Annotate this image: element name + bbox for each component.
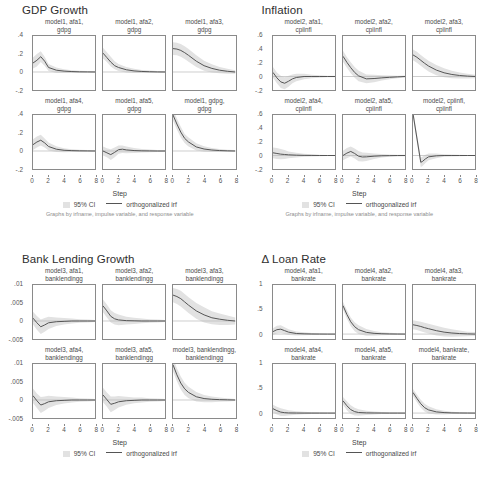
x-axis-tick-label: 2 (286, 427, 290, 433)
x-axis-row: 024680246802468 (240, 424, 479, 435)
x-axis-title: Step (240, 190, 479, 197)
x-axis-tick-label: 8 (474, 427, 478, 433)
x-axis-tick-label: 0 (171, 178, 175, 184)
panel-cell: model4, bankrate, bankrate (409, 346, 479, 424)
legend: 95% CIorthogonalized irf (240, 201, 479, 208)
x-axis-tick-label: 4 (372, 178, 376, 184)
plot-area (342, 363, 406, 419)
irf-line-swatch-icon (346, 452, 362, 453)
panel-row: 1.50model4, afa4, bankratemodel4, afa5, … (240, 346, 479, 424)
x-axis-row: 024680246802468 (240, 175, 479, 186)
plot-area (102, 363, 166, 419)
panel-cell: model2, afa2, cpiinfl (339, 18, 409, 96)
panel-title: model4, bankrate, bankrate (409, 346, 479, 361)
panel-group-bank-lending-growth: Bank Lending Growth .01.0050-.005model3,… (0, 243, 240, 486)
x-axis-tick-label: 4 (132, 427, 136, 433)
x-axis-tick-label: 6 (219, 427, 223, 433)
panel-title: model2, afa2, cpiinfl (339, 18, 409, 33)
x-axis-row: 024680246802468 (0, 175, 240, 186)
panel-cell: model4, afa1, bankrate (269, 267, 339, 345)
y-axis-tick-label: .6 (257, 32, 262, 38)
y-axis-tick-label: .01 (14, 281, 23, 287)
plot-area (102, 114, 166, 170)
panel-cell: model3, afa1, banklendingg (29, 267, 99, 345)
x-axis-tick-label: 4 (442, 178, 446, 184)
y-axis-tick-label: .4 (18, 32, 23, 38)
x-axis-tick-label: 8 (165, 427, 169, 433)
y-axis-tick-label: -.005 (8, 416, 23, 422)
y-axis-tick-label: .01 (14, 360, 23, 366)
x-axis-tick-label: 8 (94, 427, 98, 433)
x-axis-tick-label: 0 (30, 427, 34, 433)
plot-area (32, 284, 96, 340)
panel-title: model1, afa1, gdpg (29, 18, 99, 33)
panel-cell: model1, afa1, gdpg (29, 18, 99, 96)
ci-band-swatch-icon (63, 202, 70, 208)
x-axis-tick-label: 8 (94, 178, 98, 184)
legend-label-irf: orthogonalized irf (366, 201, 417, 208)
x-axis-tick-label: 6 (78, 178, 82, 184)
panel-cell: model4, afa3, bankrate (409, 267, 479, 345)
y-axis-tick-label: -.2 (16, 88, 23, 94)
plot-area (342, 284, 406, 340)
panel-title: model2, cpiinfl, cpiinfl (409, 97, 479, 112)
plot-area (172, 35, 236, 91)
x-axis-tick-label: 0 (410, 427, 414, 433)
irf-line-swatch-icon (106, 203, 122, 204)
x-axis-tick-label: 6 (318, 178, 322, 184)
panel-cell: model2, cpiinfl, cpiinfl (409, 97, 479, 175)
x-axis-tick-label: 6 (149, 427, 153, 433)
y-axis-tick-label: 0 (19, 148, 23, 154)
plot-area (272, 114, 336, 170)
y-axis-tick-label: .4 (257, 46, 262, 52)
legend: 95% CIorthogonalized irf (0, 450, 240, 457)
plot-grid-inflation: .6.4.20-.2model2, afa1, cpiinflmodel2, a… (240, 18, 479, 217)
x-axis-tick-label: 4 (372, 427, 376, 433)
panel-cell: model3, banklendingg, banklendingg (169, 346, 239, 424)
plot-grid-bank-lending-growth: .01.0050-.005model3, afa1, banklendinggm… (0, 267, 240, 457)
legend-label-irf: orthogonalized irf (126, 450, 177, 457)
panel-cell: model3, afa2, banklendingg (99, 267, 169, 345)
x-axis-tick-label: 0 (100, 178, 104, 184)
x-axis-tick-label: 4 (62, 427, 66, 433)
panel-row: .01.0050-.005model3, afa4, banklendinggm… (0, 346, 240, 424)
x-axis-tick-label: 2 (187, 427, 191, 433)
y-axis-tick-label: .4 (18, 111, 23, 117)
y-axis-tick-label: -.2 (255, 167, 262, 173)
legend: 95% CIorthogonalized irf (240, 450, 479, 457)
x-axis-row: 024680246802468 (0, 424, 240, 435)
plot-area (32, 35, 96, 91)
x-axis-tick-label: 6 (388, 427, 392, 433)
plot-area (412, 284, 476, 340)
panel-cell: model1, afa3, gdpg (169, 18, 239, 96)
plot-area (412, 35, 476, 91)
x-axis-tick-label: 0 (410, 178, 414, 184)
panel-title: model2, afa4, cpiinfl (269, 97, 339, 112)
panel-cell: model1, afa2, gdpg (99, 18, 169, 96)
panel-cell: model2, afa3, cpiinfl (409, 18, 479, 96)
x-axis-tick-label: 8 (474, 178, 478, 184)
panel-title: model3, afa4, banklendingg (29, 346, 99, 361)
panel-title: model4, afa4, bankrate (269, 346, 339, 361)
y-axis: .01.0050-.005 (0, 267, 29, 345)
plot-area (342, 114, 406, 170)
panel-cell: model3, afa5, banklendingg (99, 346, 169, 424)
x-axis-tick-label: 8 (165, 178, 169, 184)
figure-subnote: Graphs by irfname, impulse variable, and… (0, 211, 240, 217)
panel-title: model1, afa2, gdpg (99, 18, 169, 33)
plot-area (272, 35, 336, 91)
ci-band-swatch-icon (302, 202, 309, 208)
x-axis-tick-label: 0 (171, 427, 175, 433)
panel-cell: model1, afa4, gdpg (29, 97, 99, 175)
x-axis-tick-label: 4 (442, 427, 446, 433)
section-title-bank-lending-growth: Bank Lending Growth (22, 253, 135, 265)
panel-cell: model4, afa5, bankrate (339, 346, 409, 424)
irf-line-swatch-icon (106, 452, 122, 453)
x-axis-tick-label: 8 (334, 178, 338, 184)
x-axis-tick-label: 2 (356, 427, 360, 433)
legend-label-ci: 95% CI (74, 450, 96, 457)
x-axis-tick-label: 6 (388, 178, 392, 184)
x-axis-tick-label: 4 (203, 427, 207, 433)
y-axis: 1.50 (240, 346, 269, 424)
panel-cell: model4, afa4, bankrate (269, 346, 339, 424)
